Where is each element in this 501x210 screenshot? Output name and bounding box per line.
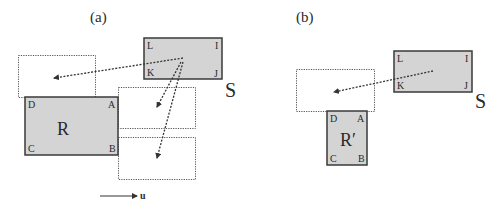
corner-j: J	[214, 68, 218, 79]
rect-r-prime-label: R′	[340, 130, 356, 150]
corner-d: D	[330, 113, 337, 124]
corner-c: C	[28, 143, 35, 154]
translated-copy-left-b	[297, 70, 375, 112]
rect-r: D A C B R	[25, 97, 118, 155]
panel-a: (a) D A C B R L I K J S u	[19, 9, 237, 201]
rect-r-label: R	[57, 119, 69, 139]
diagram-canvas: (a) D A C B R L I K J S u	[0, 0, 501, 210]
corner-k: K	[397, 80, 405, 91]
direction-u-label: u	[140, 190, 146, 201]
translated-copy-right-lower	[119, 138, 196, 180]
rect-s-label: S	[225, 79, 236, 101]
translated-copy-right-upper	[119, 88, 196, 129]
panel-b-label: (b)	[296, 9, 314, 26]
translated-copy-left	[19, 56, 96, 98]
corner-j: J	[464, 80, 468, 91]
panel-b: (b) D A C B R′ L I K J S	[296, 9, 486, 165]
corner-a: A	[108, 99, 116, 110]
panel-a-label: (a)	[90, 9, 107, 26]
corner-d: D	[28, 99, 35, 110]
corner-l: L	[147, 40, 153, 51]
corner-l: L	[397, 53, 403, 64]
rect-s-b-label: S	[475, 90, 486, 112]
rect-r-prime: D A C B R′	[327, 111, 367, 165]
corner-b: B	[358, 153, 365, 164]
corner-i: I	[215, 40, 218, 51]
corner-a: A	[357, 113, 365, 124]
corner-i: I	[465, 53, 468, 64]
corner-b: B	[109, 143, 116, 154]
corner-c: C	[330, 153, 337, 164]
corner-k: K	[147, 67, 155, 78]
